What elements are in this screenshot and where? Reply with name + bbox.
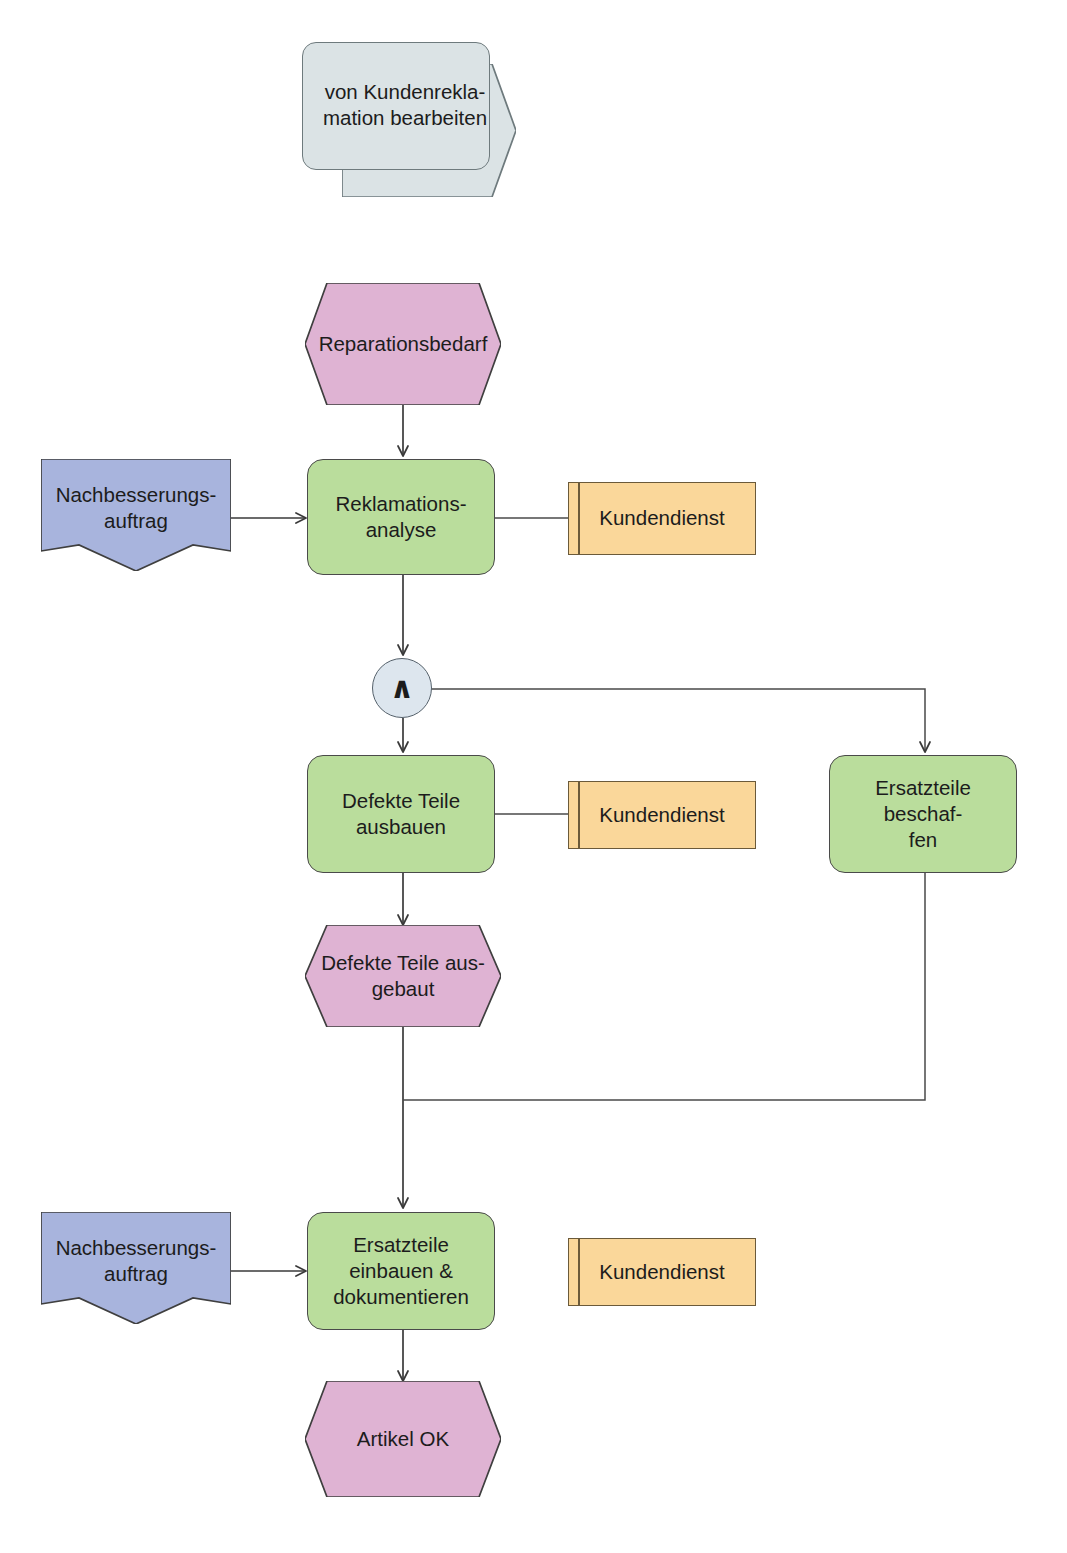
document-nachbesserungsauftrag-1-label: Nachbesserungs- auftrag bbox=[46, 482, 227, 534]
and-operator-icon: ∧ bbox=[390, 669, 414, 707]
org-unit-kundendienst-2-label: Kundendienst bbox=[589, 802, 734, 828]
process-interface-label: von Kundenrekla- mation bearbeiten bbox=[302, 42, 508, 168]
event-artikel-ok-label: Artikel OK bbox=[347, 1426, 459, 1452]
function-ersatzteile-beschaffen-label: Ersatzteile beschaf- fen bbox=[830, 775, 1016, 854]
process-interface-kundenreklamation[interactable]: von Kundenrekla- mation bearbeiten bbox=[302, 42, 516, 197]
document-nachbesserungsauftrag-2[interactable]: Nachbesserungs- auftrag bbox=[41, 1212, 231, 1324]
org-unit-kundendienst-1[interactable]: Kundendienst bbox=[568, 482, 756, 555]
edge-and-to-ersatzteile-beschaffen bbox=[431, 689, 925, 752]
function-reklamationsanalyse[interactable]: Reklamations- analyse bbox=[307, 459, 495, 575]
connector-and[interactable]: ∧ bbox=[372, 658, 432, 718]
org-unit-kundendienst-3[interactable]: Kundendienst bbox=[568, 1238, 756, 1306]
function-defekte-teile-ausbauen[interactable]: Defekte Teile ausbauen bbox=[307, 755, 495, 873]
function-reklamationsanalyse-label: Reklamations- analyse bbox=[325, 491, 476, 543]
event-defekte-teile-ausgebaut[interactable]: Defekte Teile aus- gebaut bbox=[305, 925, 501, 1027]
document-nachbesserungsauftrag-1[interactable]: Nachbesserungs- auftrag bbox=[41, 459, 231, 571]
function-defekte-teile-ausbauen-label: Defekte Teile ausbauen bbox=[332, 788, 470, 840]
org-unit-left-bar bbox=[578, 782, 580, 848]
event-defekte-teile-ausgebaut-label: Defekte Teile aus- gebaut bbox=[311, 950, 495, 1002]
event-artikel-ok[interactable]: Artikel OK bbox=[305, 1381, 501, 1497]
epc-diagram-canvas: montieren und verbessern. bbox=[0, 0, 1067, 1553]
document-nachbesserungsauftrag-2-label: Nachbesserungs- auftrag bbox=[46, 1235, 227, 1287]
org-unit-kundendienst-2[interactable]: Kundendienst bbox=[568, 781, 756, 849]
event-reparationsbedarf[interactable]: Reparationsbedarf bbox=[305, 283, 501, 405]
function-ersatzteile-einbauen-label: Ersatzteile einbauen & dokumentieren bbox=[323, 1232, 479, 1311]
org-unit-kundendienst-1-label: Kundendienst bbox=[589, 505, 734, 531]
org-unit-left-bar bbox=[578, 1239, 580, 1305]
org-unit-left-bar bbox=[578, 483, 580, 554]
function-ersatzteile-beschaffen[interactable]: Ersatzteile beschaf- fen bbox=[829, 755, 1017, 873]
function-ersatzteile-einbauen-dokumentieren[interactable]: Ersatzteile einbauen & dokumentieren bbox=[307, 1212, 495, 1330]
org-unit-kundendienst-3-label: Kundendienst bbox=[589, 1259, 734, 1285]
event-reparationsbedarf-label: Reparationsbedarf bbox=[309, 331, 498, 357]
